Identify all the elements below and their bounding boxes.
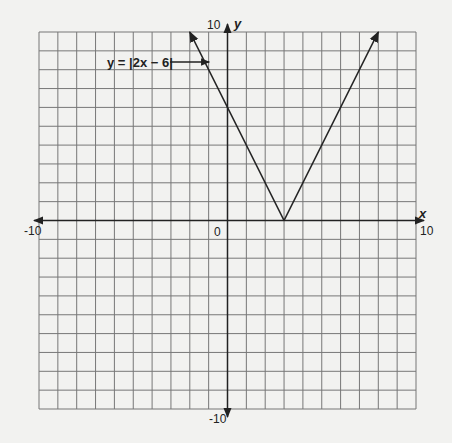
coordinate-plane	[0, 0, 452, 443]
equation-label: y = |2x − 6|	[107, 56, 173, 69]
y-max-label: 10	[207, 19, 220, 31]
x-min-label: -10	[24, 225, 41, 237]
y-axis-label: y	[234, 17, 241, 30]
x-axis-label: x	[419, 207, 426, 220]
origin-label: 0	[214, 226, 221, 238]
y-min-label: -10	[209, 413, 226, 425]
x-max-label: 10	[420, 225, 433, 237]
